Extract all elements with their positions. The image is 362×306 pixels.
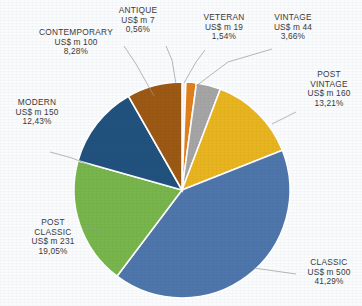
pie-label-classic: CLASSIC US$ m 500 41,29%: [296, 258, 362, 287]
leader-line-post-vintage: [272, 112, 296, 124]
pie-label-vintage: VINTAGE US$ m 44 3,66%: [262, 13, 324, 42]
leader-line-veteran: [184, 50, 205, 83]
pie-slices-group: [74, 82, 290, 298]
pie-chart: ANTIQUE US$ m 7 0,56% VETERAN US$ m 19 1…: [0, 0, 362, 306]
pie-label-post-classic-percent: 19,05%: [20, 247, 86, 257]
pie-label-post-classic: POST CLASSIC US$ m 231 19,05%: [20, 218, 86, 256]
leader-line-antique: [166, 46, 176, 84]
pie-label-modern: MODERN US$ m 150 12,43%: [4, 98, 70, 127]
pie-label-modern-percent: 12,43%: [4, 117, 70, 127]
pie-label-post-vintage: POST VINTAGE US$ m 160 13,21%: [296, 70, 362, 108]
pie-label-classic-percent: 41,29%: [296, 277, 362, 287]
pie-label-post-vintage-percent: 13,21%: [296, 99, 362, 109]
leader-line-classic: [254, 268, 296, 274]
pie-label-vintage-percent: 3,66%: [262, 32, 324, 42]
pie-label-veteran-percent: 1,54%: [193, 32, 255, 42]
pie-label-contemporary-percent: 8,28%: [26, 47, 126, 57]
leader-line-contemporary: [124, 46, 154, 96]
pie-label-veteran: VETERAN US$ m 19 1,54%: [193, 13, 255, 42]
pie-label-contemporary: CONTEMPORARY US$ m 100 8,28%: [26, 28, 126, 57]
leader-line-vintage: [196, 49, 272, 86]
